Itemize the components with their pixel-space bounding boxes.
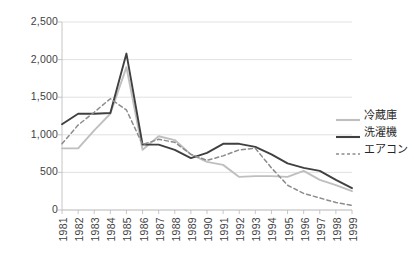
legend-label: エアコン	[364, 144, 408, 155]
x-tick-label: 1988	[170, 217, 182, 242]
x-tick-label: 1987	[154, 217, 166, 242]
chart-caption	[2, 266, 412, 277]
x-tick-label: 1997	[315, 217, 327, 242]
x-tick-label: 1983	[89, 217, 101, 242]
legend-label: 洗濯機	[364, 127, 397, 138]
line-chart-figure: 05001,0001,5002,0002,500 198119821983198…	[0, 0, 414, 277]
x-tick-label: 1994	[266, 217, 278, 242]
x-tick-label: 1993	[250, 217, 262, 242]
chart-screenshot: 05001,0001,5002,0002,500 198119821983198…	[0, 0, 414, 277]
x-tick-label: 1990	[202, 217, 214, 242]
legend-item: エアコン	[336, 141, 412, 158]
legend-swatch-icon	[336, 111, 360, 121]
legend-swatch-icon	[336, 145, 360, 155]
legend-item: 洗濯機	[336, 124, 412, 141]
x-tick-label: 1985	[121, 217, 133, 242]
legend-item: 冷蔵庫	[336, 107, 412, 124]
x-tick-label: 1996	[299, 217, 311, 242]
chart-legend: 冷蔵庫洗濯機エアコン	[336, 107, 412, 158]
x-tick-label: 1998	[331, 217, 343, 242]
x-tick-label: 1986	[138, 217, 150, 242]
x-tick-label: 1984	[105, 217, 117, 242]
x-tick-label: 1982	[73, 217, 85, 242]
x-tick-label: 1995	[283, 217, 295, 242]
x-tick-label: 1991	[218, 217, 230, 242]
x-tick-label: 1989	[186, 217, 198, 242]
x-tick-label: 1992	[234, 217, 246, 242]
x-tick-label: 1999	[347, 217, 359, 242]
legend-swatch-icon	[336, 128, 360, 138]
legend-label: 冷蔵庫	[364, 110, 397, 121]
x-tick-label: 1981	[57, 217, 69, 242]
